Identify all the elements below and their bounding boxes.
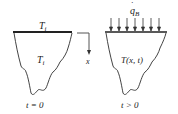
axis-label: x [85,57,90,66]
axis-arrow-icon [87,50,91,55]
right-solid: · qB T(x, t) t > 0 [105,0,167,110]
right-caption: t > 0 [121,100,139,110]
left-caption: t = 0 [26,100,44,110]
left-solid: Ti Ti t = 0 [13,20,72,110]
semi-infinite-solid-diagram: Ti Ti t = 0 x · qB T(x, t) t > 0 [0,0,178,114]
heat-flux-arrows [110,18,161,31]
x-axis: x [77,33,91,66]
right-body-label: T(x, t) [121,55,143,65]
heat-flux-label: qB [130,5,140,18]
left-body-temp: Ti [37,54,45,67]
